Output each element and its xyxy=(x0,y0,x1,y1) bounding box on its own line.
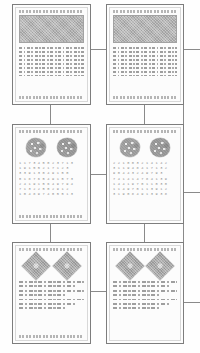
text-line xyxy=(113,303,169,305)
figure-row xyxy=(19,135,84,160)
text-line xyxy=(19,303,76,305)
text-line xyxy=(113,71,177,73)
text-line xyxy=(19,51,84,53)
panel-r1c2[interactable] xyxy=(106,4,184,105)
digit-row: 3 1 9 0 8 4 9 1 3 9 3 8 xyxy=(113,192,177,196)
digit-grid: 2 2 1 0 0 3 2 1 4 1 4 2 3 1 1 9 4 8 4 1 … xyxy=(113,160,177,218)
panel-caption-bottom xyxy=(19,335,84,338)
text-line xyxy=(19,285,76,287)
panel-r1c1[interactable] xyxy=(12,4,91,105)
panel-caption-top xyxy=(113,10,177,13)
text-line xyxy=(19,67,84,69)
connector-row2-horizontal xyxy=(91,174,107,175)
digit-row: 1 1 4 9 7 0 1 1 3 9 1 2 xyxy=(113,187,177,191)
text-block xyxy=(19,46,84,94)
text-line xyxy=(19,71,84,73)
connector-row1-horizontal xyxy=(91,49,107,50)
digit-row: 7 1 3 2 2 5 0 2 9 1 2 xyxy=(19,187,84,191)
digit-row: 9 0 4 4 3 2 4 9 7 9 3 xyxy=(113,171,177,175)
text-line xyxy=(19,294,66,296)
text-line xyxy=(19,281,84,283)
panel-body xyxy=(109,245,181,341)
text-line xyxy=(19,290,84,292)
figure-row xyxy=(113,253,177,279)
text-line xyxy=(113,299,177,301)
panel-body: 2 2 1 0 0 3 2 1 4 1 4 2 3 1 1 9 4 8 4 1 … xyxy=(109,127,181,221)
panel-r2c1[interactable]: 1 1 7 3 4 5 0 2 3 7 1 3 1 9 1 5 5 2 1 7 … xyxy=(12,124,91,224)
panel-caption-top xyxy=(19,130,84,133)
text-line xyxy=(113,285,169,287)
panel-body xyxy=(109,7,181,102)
panel-body xyxy=(15,7,88,102)
panel-body xyxy=(15,245,88,341)
digit-row: 3 1 1 9 4 8 4 1 7 1 3 2 xyxy=(113,166,177,170)
blob-cluster-icon xyxy=(57,138,77,157)
diamond-figure-icon xyxy=(146,252,174,280)
text-line xyxy=(19,59,84,61)
text-line xyxy=(19,63,84,65)
connector-row3-right-stub xyxy=(183,302,200,303)
paragraph-block xyxy=(19,279,84,333)
paragraph-block xyxy=(113,279,177,338)
text-line xyxy=(19,307,66,309)
digit-row: 0 1 8 7 6 5 4 9 1 5 7 3 xyxy=(19,177,84,181)
digit-row: 1 9 1 5 5 2 1 7 1 2 3 xyxy=(19,166,84,170)
panel-caption-top xyxy=(19,248,84,251)
figure-root: 1 1 7 3 4 5 0 2 3 7 1 3 1 9 1 5 5 2 1 7 … xyxy=(0,0,200,353)
digit-row: 2 2 1 0 0 3 2 1 4 1 4 2 xyxy=(113,161,177,165)
text-line xyxy=(113,67,177,69)
panel-r3c2[interactable] xyxy=(106,242,184,344)
panel-caption-bottom xyxy=(19,96,84,99)
text-line xyxy=(19,75,84,77)
header-band-image xyxy=(113,15,177,43)
text-block xyxy=(113,46,177,94)
header-band-image xyxy=(19,15,84,43)
digit-row: 7 4 1 4 1 4 7 8 4 1 3 9 xyxy=(113,177,177,181)
digit-row: 1 4 4 1 9 7 0 1 1 0 3 0 xyxy=(113,182,177,186)
figure-row xyxy=(19,253,84,279)
panel-caption-top xyxy=(19,10,84,13)
diamond-figure-icon xyxy=(53,252,81,280)
text-line xyxy=(113,55,177,57)
digit-row: 3 3 9 1 3 0 4 9 1 5 0 xyxy=(19,171,84,175)
panel-r3c1[interactable] xyxy=(12,242,91,344)
text-line xyxy=(113,290,177,292)
text-line xyxy=(19,55,84,57)
blob-cluster-icon xyxy=(26,138,46,157)
text-line xyxy=(113,59,177,61)
text-line xyxy=(113,63,177,65)
blob-cluster-icon xyxy=(120,138,140,157)
diamond-figure-icon xyxy=(116,252,144,280)
connector-col1-row1-row2 xyxy=(50,105,51,124)
connector-col2-row1-row2 xyxy=(144,105,145,124)
text-line xyxy=(19,299,84,301)
connector-row3-horizontal xyxy=(91,291,107,292)
digit-row: 1 0 4 8 9 7 4 0 5 5 1 3 xyxy=(19,192,84,196)
connector-col2-row2-row3 xyxy=(144,224,145,242)
panel-body: 1 1 7 3 4 5 0 2 3 7 1 3 1 9 1 5 5 2 1 7 … xyxy=(15,127,88,221)
connector-col1-row2-row3 xyxy=(50,224,51,242)
text-line xyxy=(113,75,177,77)
diamond-figure-icon xyxy=(22,252,50,280)
panel-caption-top xyxy=(113,248,177,251)
panel-r2c2[interactable]: 2 2 1 0 0 3 2 1 4 1 4 2 3 1 1 9 4 8 4 1 … xyxy=(106,124,184,224)
digit-row: 1 1 7 3 4 5 0 2 3 7 1 3 xyxy=(19,161,84,165)
text-line xyxy=(19,47,84,49)
blob-cluster-icon xyxy=(150,138,170,157)
digit-grid: 1 1 7 3 4 5 0 2 3 7 1 3 1 9 1 5 5 2 1 7 … xyxy=(19,160,84,213)
panel-caption-bottom xyxy=(113,96,177,99)
panel-caption-bottom xyxy=(19,215,84,218)
panel-caption-top xyxy=(113,130,177,133)
figure-row xyxy=(113,135,177,160)
connector-row1-right-stub xyxy=(183,49,200,50)
text-line xyxy=(113,307,159,309)
text-line xyxy=(113,47,177,49)
text-line xyxy=(113,281,177,283)
text-line xyxy=(113,294,159,296)
digit-row: 2 4 1 9 1 5 6 4 9 7 9 4 xyxy=(19,182,84,186)
connector-row2-right-stub xyxy=(183,192,200,193)
text-line xyxy=(113,51,177,53)
